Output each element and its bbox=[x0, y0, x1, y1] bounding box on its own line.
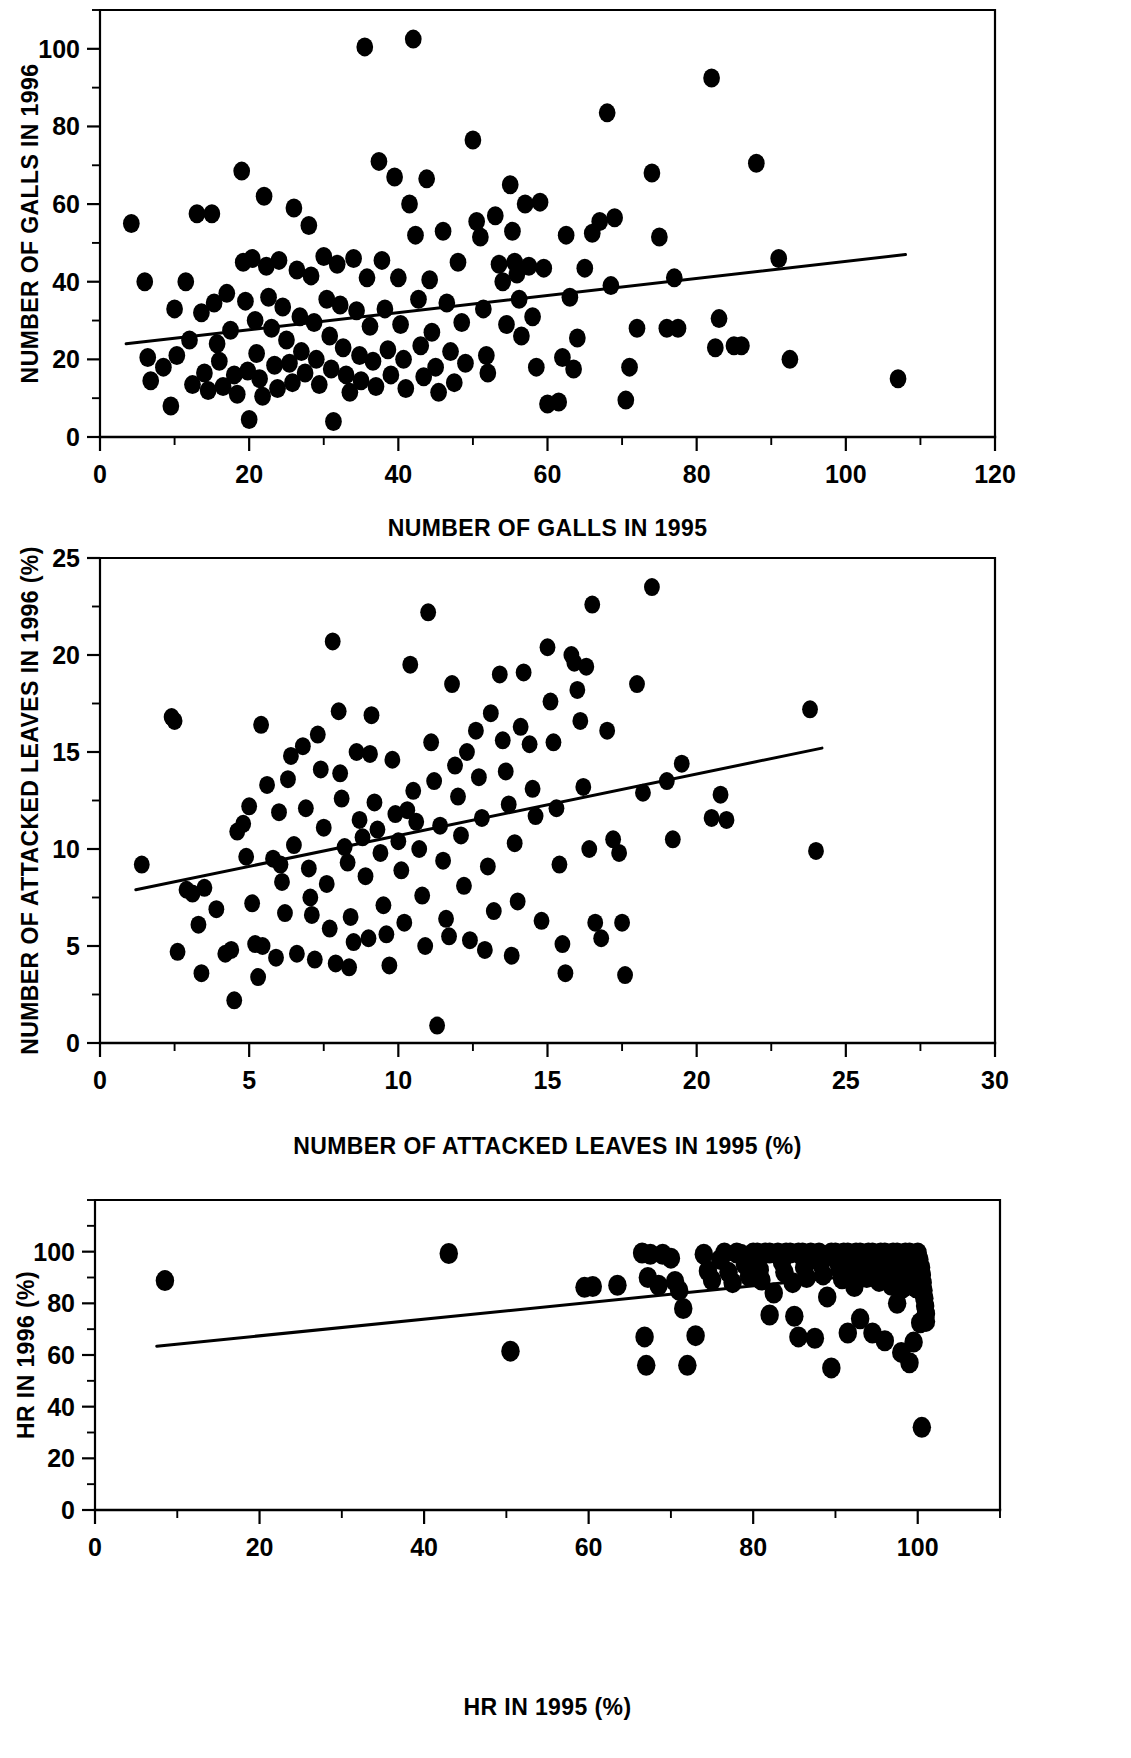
y-tick-label: 0 bbox=[66, 423, 80, 451]
x-tick-label: 20 bbox=[246, 1533, 274, 1561]
data-point bbox=[402, 656, 418, 674]
data-point bbox=[167, 712, 183, 730]
data-point bbox=[492, 665, 508, 683]
data-point bbox=[480, 857, 496, 875]
x-tick-label: 5 bbox=[242, 1066, 256, 1094]
data-point bbox=[532, 193, 549, 212]
data-point bbox=[578, 658, 594, 676]
data-point bbox=[651, 228, 668, 247]
x-tick-label: 0 bbox=[93, 460, 107, 488]
data-point bbox=[241, 797, 257, 815]
data-point bbox=[211, 352, 228, 371]
data-point bbox=[550, 393, 567, 412]
x-tick-label: 25 bbox=[832, 1066, 860, 1094]
figure-three-scatter-panels: 020406080100020406080100120NUMBER OF GAL… bbox=[0, 0, 1131, 1758]
data-point bbox=[441, 927, 457, 945]
data-point bbox=[237, 292, 254, 311]
data-point bbox=[450, 788, 466, 806]
data-point bbox=[447, 757, 463, 775]
data-point bbox=[356, 37, 373, 56]
x-tick-label: 40 bbox=[410, 1533, 438, 1561]
data-point bbox=[229, 385, 246, 404]
data-point bbox=[719, 811, 735, 829]
x-tick-label: 60 bbox=[534, 460, 562, 488]
data-point bbox=[438, 910, 454, 928]
data-point bbox=[888, 1293, 906, 1314]
data-point bbox=[139, 348, 156, 367]
data-point bbox=[465, 131, 482, 150]
data-point bbox=[611, 844, 627, 862]
data-point bbox=[603, 276, 620, 295]
plot-area-leaves bbox=[100, 558, 995, 1043]
data-point bbox=[670, 319, 687, 338]
data-point bbox=[593, 929, 609, 947]
data-point bbox=[274, 297, 291, 316]
data-point bbox=[674, 1298, 692, 1319]
data-point bbox=[501, 1341, 519, 1362]
data-point bbox=[373, 844, 389, 862]
data-point bbox=[316, 819, 332, 837]
data-point bbox=[468, 722, 484, 740]
data-point bbox=[134, 856, 150, 874]
data-point bbox=[335, 338, 352, 357]
data-point bbox=[392, 315, 409, 334]
data-point bbox=[450, 253, 467, 272]
data-point bbox=[565, 360, 582, 379]
data-point bbox=[713, 786, 729, 804]
data-point bbox=[302, 889, 318, 907]
data-point bbox=[453, 826, 469, 844]
data-point bbox=[430, 383, 447, 402]
data-point bbox=[177, 272, 194, 291]
data-point bbox=[401, 195, 418, 214]
data-point bbox=[562, 288, 579, 307]
data-point bbox=[386, 167, 403, 186]
y-tick-label: 15 bbox=[52, 738, 80, 766]
data-point bbox=[191, 916, 207, 934]
data-point bbox=[599, 103, 616, 122]
data-point bbox=[338, 365, 355, 384]
data-point bbox=[435, 852, 451, 870]
y-tick-label: 0 bbox=[66, 1029, 80, 1057]
data-point bbox=[498, 315, 515, 334]
data-point bbox=[420, 603, 436, 621]
x-axis-title: HR IN 1995 (%) bbox=[464, 1694, 632, 1720]
data-point bbox=[384, 751, 400, 769]
data-point bbox=[814, 1264, 832, 1285]
data-point bbox=[345, 249, 362, 268]
data-point bbox=[200, 381, 217, 400]
data-point bbox=[498, 762, 514, 780]
data-point bbox=[584, 1276, 602, 1297]
chart-panel-galls: 020406080100020406080100120NUMBER OF GAL… bbox=[0, 0, 1131, 560]
data-point bbox=[665, 830, 681, 848]
y-axis-galls: 020406080100 bbox=[38, 10, 100, 451]
data-point bbox=[277, 904, 293, 922]
y-tick-label: 20 bbox=[52, 345, 80, 373]
data-point bbox=[617, 391, 634, 410]
data-point bbox=[278, 330, 295, 349]
data-point bbox=[517, 195, 534, 214]
data-point bbox=[393, 861, 409, 879]
data-point bbox=[375, 896, 391, 914]
data-point bbox=[381, 956, 397, 974]
y-tick-label: 5 bbox=[66, 932, 80, 960]
data-point bbox=[557, 964, 573, 982]
data-point bbox=[644, 578, 660, 596]
data-point bbox=[390, 268, 407, 287]
data-point bbox=[208, 900, 224, 918]
x-axis-hr: 020406080100 bbox=[88, 1510, 1000, 1561]
chart-panel-hr: 020406080100020406080100HR IN 1995 (%)HR… bbox=[0, 1180, 1131, 1758]
data-point bbox=[733, 336, 750, 355]
data-point bbox=[358, 867, 374, 885]
data-point bbox=[711, 309, 728, 328]
y-axis-leaves: 0510152025 bbox=[52, 544, 100, 1057]
data-point bbox=[325, 632, 341, 650]
data-point bbox=[298, 799, 314, 817]
data-point bbox=[303, 266, 320, 285]
data-point bbox=[250, 968, 266, 986]
data-point bbox=[235, 815, 251, 833]
data-point bbox=[686, 1325, 704, 1346]
data-point bbox=[438, 294, 455, 313]
x-axis-title: NUMBER OF ATTACKED LEAVES IN 1995 (%) bbox=[293, 1133, 802, 1159]
data-point bbox=[166, 299, 183, 318]
data-point bbox=[591, 212, 608, 231]
